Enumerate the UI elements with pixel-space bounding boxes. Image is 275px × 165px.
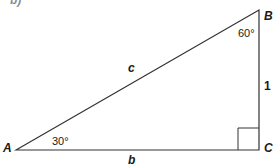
right-angle-marker — [238, 128, 259, 150]
side-label-b: b — [128, 153, 135, 165]
triangle-outline — [16, 10, 259, 150]
vertex-label-c: C — [264, 141, 273, 155]
side-label-c: c — [128, 61, 135, 75]
angle-label-b: 60° — [238, 27, 255, 39]
angle-label-a: 30° — [52, 135, 69, 147]
vertex-label-b: B — [264, 9, 273, 23]
vertex-label-a: A — [2, 141, 12, 155]
partial-label: b) — [10, 0, 21, 7]
side-label-1: 1 — [264, 79, 271, 93]
triangle-diagram: b) A B C c b 1 30° 60° — [0, 0, 275, 165]
